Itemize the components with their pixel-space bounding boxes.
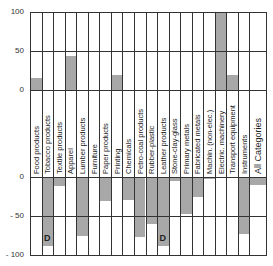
category-label: Paper products (101, 123, 110, 174)
column-divider (249, 12, 250, 255)
category-label: Primary metals (182, 124, 191, 174)
category-label: Tobacco products (43, 115, 52, 174)
category-label: Rubber-plastic (147, 126, 156, 174)
annotation-d: D (44, 233, 51, 243)
category-label: Lumber products (78, 118, 87, 174)
y-tick-label: - 50 (0, 211, 24, 220)
category-label: Stone-clay-glass (170, 119, 179, 174)
y-tick-label: 100 (0, 7, 24, 16)
y-tick-label: 0 (0, 172, 24, 181)
column-divider (157, 12, 158, 255)
category-label: Fabricated metals (193, 114, 202, 174)
column-divider (111, 12, 112, 255)
gridline (30, 51, 267, 52)
column-divider (215, 12, 216, 255)
column-divider (65, 12, 66, 255)
category-label: Instruments (240, 135, 249, 174)
gridline (30, 216, 267, 217)
y-tick-label: - 100 (0, 250, 24, 259)
column-divider (238, 12, 239, 255)
y-tick-label: 50 (0, 46, 24, 55)
category-label: Leather products (159, 118, 168, 174)
category-label: Food products (32, 126, 41, 174)
category-label: Printing (113, 149, 122, 174)
column-divider (180, 12, 181, 255)
category-label: Furniture (90, 144, 99, 174)
gridline (30, 90, 267, 91)
column-divider (134, 12, 135, 255)
category-label: Apparel (66, 148, 75, 174)
category-label: All Categories (253, 118, 263, 174)
y-tick-label: 0 (0, 85, 24, 94)
column-divider (88, 12, 89, 255)
category-label: Petro-coal products (136, 109, 145, 174)
category-label: Machin. (non-elec.) (205, 110, 214, 174)
category-label: Electric. machinery (217, 111, 226, 174)
column-divider (53, 12, 54, 255)
annotation-d: D (160, 233, 167, 243)
gridline (30, 177, 267, 178)
category-label: Chemicals (124, 139, 133, 174)
category-label: Transport equipment (228, 105, 237, 174)
column-divider (122, 12, 123, 255)
category-label: Textile products (55, 122, 64, 174)
